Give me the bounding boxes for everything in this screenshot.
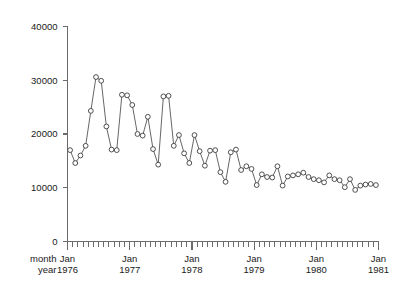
data-point-marker <box>239 168 244 173</box>
data-point-marker <box>99 78 104 83</box>
data-point-marker <box>275 164 280 169</box>
data-point-marker <box>187 161 192 166</box>
data-point-marker <box>140 133 145 138</box>
data-point-marker <box>197 149 202 154</box>
data-point-marker <box>337 178 342 183</box>
data-point-marker <box>223 179 228 184</box>
data-point-marker <box>348 177 353 182</box>
data-point-marker <box>254 183 259 188</box>
data-point-marker <box>374 183 379 188</box>
data-point-marker <box>120 92 125 97</box>
x-tick-year-label: 1980 <box>306 264 327 275</box>
data-point-marker <box>270 175 275 180</box>
data-point-marker <box>161 94 166 99</box>
data-point-marker <box>68 148 73 153</box>
x-tick-month-label: Jan <box>60 253 75 264</box>
data-point-marker <box>322 180 327 185</box>
axis-row-labels: monthyear <box>30 253 56 275</box>
data-point-marker <box>280 183 285 188</box>
x-axis: Jan1976Jan1977Jan1978Jan1979Jan1980Jan19… <box>57 242 389 275</box>
data-point-marker <box>109 147 114 152</box>
data-point-marker <box>182 151 187 156</box>
y-tick-label: 20000 <box>31 128 57 139</box>
data-point-marker <box>316 178 321 183</box>
x-tick-year-label: 1978 <box>181 264 202 275</box>
data-point-marker <box>358 183 363 188</box>
data-point-marker <box>171 143 176 148</box>
data-point-marker <box>296 172 301 177</box>
x-tick-year-label: 1976 <box>57 264 78 275</box>
data-point-marker <box>327 173 332 178</box>
data-point-marker <box>156 162 161 167</box>
data-markers <box>68 75 379 193</box>
data-point-marker <box>83 143 88 148</box>
data-point-marker <box>218 170 223 175</box>
data-point-marker <box>244 164 249 169</box>
data-point-marker <box>151 147 156 152</box>
data-point-marker <box>291 173 296 178</box>
data-point-marker <box>145 114 150 119</box>
x-tick-month-label: Jan <box>184 253 199 264</box>
data-point-marker <box>130 103 135 108</box>
data-point-marker <box>265 175 270 180</box>
data-point-marker <box>166 93 171 98</box>
data-point-marker <box>259 172 264 177</box>
data-point-marker <box>342 185 347 190</box>
data-point-marker <box>311 177 316 182</box>
x-tick-year-label: 1981 <box>368 264 389 275</box>
data-point-marker <box>135 132 140 137</box>
data-point-marker <box>114 148 119 153</box>
x-tick-month-label: Jan <box>246 253 261 264</box>
data-point-marker <box>306 175 311 180</box>
data-point-marker <box>285 174 290 179</box>
data-point-marker <box>213 148 218 153</box>
data-point-marker <box>249 167 254 172</box>
chart-container: 010000200003000040000 Jan1976Jan1977Jan1… <box>0 0 406 289</box>
data-point-marker <box>125 93 130 98</box>
line-chart-svg: 010000200003000040000 Jan1976Jan1977Jan1… <box>0 0 406 289</box>
data-point-marker <box>94 75 99 80</box>
y-axis: 010000200003000040000 <box>31 21 67 247</box>
y-tick-label: 40000 <box>31 21 57 32</box>
data-point-marker <box>228 150 233 155</box>
data-point-marker <box>88 108 93 113</box>
row-label-month: month <box>30 253 56 264</box>
data-point-marker <box>192 133 197 138</box>
y-tick-label: 0 <box>52 236 57 247</box>
x-tick-year-label: 1977 <box>119 264 140 275</box>
x-tick-month-label: Jan <box>371 253 386 264</box>
data-point-marker <box>353 188 358 193</box>
data-point-marker <box>332 177 337 182</box>
data-point-marker <box>73 161 78 166</box>
data-point-marker <box>104 124 109 129</box>
data-point-marker <box>177 133 182 138</box>
data-point-marker <box>208 148 213 153</box>
data-point-marker <box>78 153 83 158</box>
x-tick-year-label: 1979 <box>244 264 265 275</box>
data-point-marker <box>368 182 373 187</box>
data-point-marker <box>234 147 239 152</box>
y-tick-label: 30000 <box>31 75 57 86</box>
row-label-year: year <box>38 264 56 275</box>
x-tick-month-label: Jan <box>122 253 137 264</box>
data-point-marker <box>202 163 207 168</box>
y-tick-label: 10000 <box>31 182 57 193</box>
data-point-marker <box>363 182 368 187</box>
data-point-marker <box>301 170 306 175</box>
x-tick-month-label: Jan <box>309 253 324 264</box>
